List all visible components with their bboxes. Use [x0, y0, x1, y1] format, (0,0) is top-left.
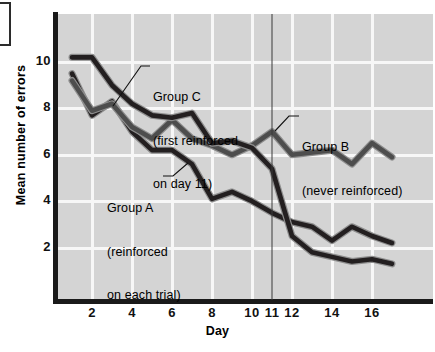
- y-tick-label: 8: [25, 99, 51, 114]
- group-b-annotation-line2: (never reinforced): [302, 184, 402, 199]
- y-axis-label: Mean number of errors: [14, 40, 28, 230]
- group-b-annotation: Group B (never reinforced): [302, 111, 402, 227]
- gridline-horizontal: [57, 107, 433, 110]
- y-tick-label: 4: [25, 192, 51, 207]
- x-axis-label: Day: [0, 324, 435, 338]
- x-tick-label: 2: [78, 305, 106, 320]
- gridline-vertical: [251, 14, 254, 300]
- y-tick-label: 10: [25, 53, 51, 68]
- figure-root: 108642 24681011121416 Mean number of err…: [0, 0, 435, 352]
- group-c-annotation-line2: (first reinforced: [153, 134, 238, 149]
- group-a-annotation-line3: on each trial): [107, 288, 181, 303]
- x-tick-label: 16: [358, 305, 386, 320]
- x-tick-label: 14: [318, 305, 346, 320]
- y-axis-line: [53, 12, 58, 304]
- x-tick-label: 12: [278, 305, 306, 320]
- page-edge-artifact: [0, 2, 11, 46]
- gridline-horizontal: [57, 61, 433, 64]
- y-tick-label: 2: [25, 239, 51, 254]
- group-a-annotation-line2: (reinforced: [107, 245, 181, 260]
- group-c-annotation-line1: Group C: [153, 90, 238, 105]
- y-tick-label: 6: [25, 146, 51, 161]
- group-a-annotation: Group A (reinforced on each trial): [107, 172, 181, 332]
- gridline-vertical: [91, 14, 94, 300]
- group-b-annotation-line1: Group B: [302, 140, 402, 155]
- group-a-annotation-line1: Group A: [107, 201, 181, 216]
- x-tick-label: 8: [198, 305, 226, 320]
- gridline-vertical: [291, 14, 294, 300]
